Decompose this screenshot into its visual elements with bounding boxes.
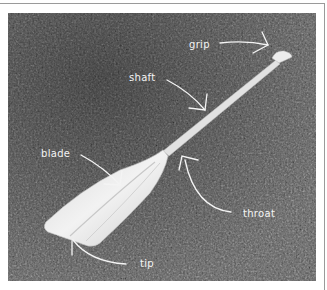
frame-right-border <box>324 3 325 290</box>
frame-top-border <box>0 3 325 4</box>
label-shaft: shaft <box>129 72 155 83</box>
paddle-photo: grip shaft blade throat tip <box>8 13 316 281</box>
label-tip: tip <box>140 258 154 269</box>
label-blade: blade <box>41 148 70 159</box>
label-throat: throat <box>243 208 275 219</box>
label-grip: grip <box>189 39 210 50</box>
